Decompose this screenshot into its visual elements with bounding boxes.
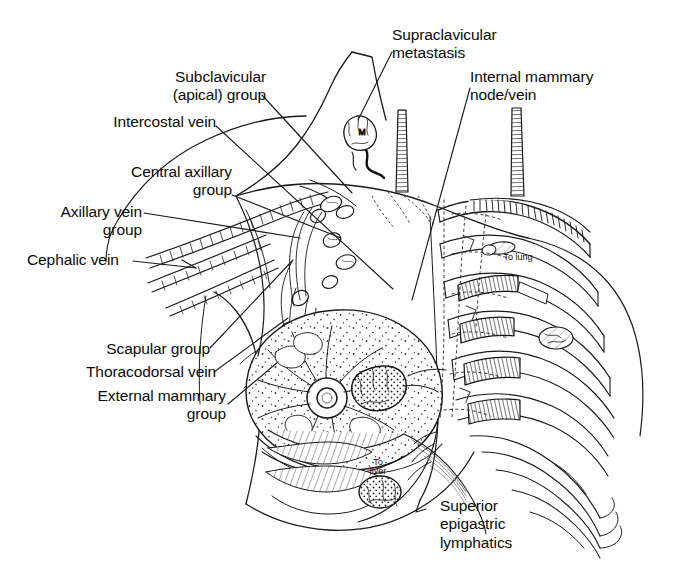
label-intercostal-vein: Intercostal vein xyxy=(94,113,216,131)
label-thoracodorsal-vein: Thoracodorsal vein xyxy=(86,363,212,381)
anatomical-figure: M xyxy=(0,0,673,580)
label-central-axillary-group: Central axillary group xyxy=(108,163,232,200)
label-subclavicular-apical-group: Subclavicular (apical) group xyxy=(142,68,266,105)
label-supraclavicular-metastasis: Supraclavicular metastasis xyxy=(392,26,552,63)
label-cephalic-vein: Cephalic vein xyxy=(27,251,135,269)
annotation-to-lung: To lung xyxy=(494,253,542,262)
annotation-to-liver: To liver xyxy=(362,458,394,477)
label-internal-mammary-node-vein: Internal mammary node/vein xyxy=(470,68,638,105)
label-scapular-group: Scapular group xyxy=(98,340,210,358)
label-superior-epigastric-lymphatics: Superior epigastric lymphatics xyxy=(440,497,580,552)
label-axillary-vein-group: Axillary vein group xyxy=(38,203,142,240)
label-external-mammary-group: External mammary group xyxy=(92,387,226,424)
svg-text:M: M xyxy=(358,127,365,137)
